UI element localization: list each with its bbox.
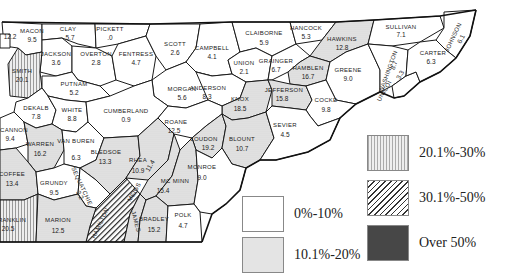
county-name-dekalb: DEKALB xyxy=(23,105,48,111)
county-value-van-buren: 6.3 xyxy=(71,154,80,161)
county-value-blount: 10.7 xyxy=(236,145,249,152)
county-value-morgan: 5.6 xyxy=(177,94,186,101)
county-value-greene: 9.0 xyxy=(343,75,352,82)
county-name-macon: MACON xyxy=(20,28,44,34)
county-name-clay: CLAY xyxy=(60,26,76,32)
county-name-coffee: COFFEE xyxy=(0,171,25,177)
county-name-hamblen: HAMBLEN xyxy=(292,65,323,71)
county-name-union: UNION xyxy=(234,60,255,66)
county-value-fentress: 4.7 xyxy=(131,59,140,66)
county-name-jefferson: JEFFERSON xyxy=(265,87,303,93)
county-name-claiborne: CLAIBORNE xyxy=(245,30,282,36)
county-name-cannon: CANNON xyxy=(0,127,28,133)
county-name-jackson: JACKSON xyxy=(41,51,71,57)
county-name-sullivan: SULLIVAN xyxy=(386,24,417,30)
county-value-pickett: .0 xyxy=(107,34,113,41)
county-name-scott: SCOTT xyxy=(164,41,186,47)
county-value-rhea: 10.9 xyxy=(132,167,145,174)
county-name-cumberland: CUMBERLAND xyxy=(103,108,148,114)
legend-swatch-diagonal xyxy=(367,180,409,216)
county-name-overton: OVERTON xyxy=(80,51,112,57)
county-name-cocke: COCKE xyxy=(315,97,338,103)
legend-label: 30.1%-50% xyxy=(419,190,486,206)
legend-item-10-20: 10.1%-20% xyxy=(242,237,361,273)
county-value-grainger: 6.7 xyxy=(271,66,280,73)
legend-swatch-vertical xyxy=(367,135,409,171)
legend-item-0-10: 0%-10% xyxy=(242,196,343,232)
county-value-hamblen: 16.7 xyxy=(302,73,315,80)
legend-label: Over 50% xyxy=(419,235,476,251)
county-value-bradley: 15.2 xyxy=(148,226,161,233)
legend-label: 10.1%-20% xyxy=(294,247,361,263)
county-value-campbell: 4.1 xyxy=(207,53,216,60)
county-name-greene: GREENE xyxy=(334,67,361,73)
county-jackson xyxy=(40,38,72,76)
county-value-trousdale: 12.2 xyxy=(4,33,17,40)
county-value-coffee: 13.4 xyxy=(6,180,19,187)
county-value-white: 8.8 xyxy=(67,115,76,122)
county-name-marion: MARION xyxy=(45,217,71,223)
county-value-smith: 20.1 xyxy=(16,76,29,83)
legend-item-30-50: 30.1%-50% xyxy=(367,180,486,216)
county-name-loudon: LOUDON xyxy=(190,136,217,142)
county-value-putnam: 5.2 xyxy=(69,89,78,96)
county-value-roane: 12.5 xyxy=(168,127,181,134)
county-name-hawkins: HAWKINS xyxy=(327,36,357,42)
county-name-hancock: HANCOCK xyxy=(290,25,322,31)
county-name-franklin: FRANKLIN xyxy=(0,217,26,223)
county-value-knox: 18.5 xyxy=(234,105,247,112)
county-value-cannon: 9.4 xyxy=(5,135,14,142)
county-value-carter: 6.3 xyxy=(426,58,435,65)
county-value-loudon: 19.2 xyxy=(202,144,215,151)
county-value-claiborne: 5.9 xyxy=(259,39,268,46)
county-name-smith: SMITH xyxy=(12,68,32,74)
county-name-pickett: PICKETT xyxy=(96,26,123,32)
county-value-sullivan: 7.1 xyxy=(396,31,405,38)
county-value-warren: 16.2 xyxy=(34,150,47,157)
legend-item-over-50: Over 50% xyxy=(367,225,476,261)
legend-swatch-dotted xyxy=(242,237,284,273)
county-value-jackson: 3.6 xyxy=(51,59,60,66)
legend-swatch-white xyxy=(242,196,284,232)
county-value-clay: 5.7 xyxy=(65,34,74,41)
county-value-overton: 2.8 xyxy=(91,59,100,66)
county-value-macon: 9.5 xyxy=(27,36,36,43)
county-name-rhea: RHEA xyxy=(129,157,147,163)
county-value-dekalb: 7.8 xyxy=(31,113,40,120)
county-name-carter: CARTER xyxy=(420,50,447,56)
county-value-bledsoe: 13.3 xyxy=(99,158,112,165)
county-value-mcminn: 15.4 xyxy=(157,187,170,194)
county-name-monroe: MONROE xyxy=(188,164,217,170)
county-name-fentress: FENTRESS xyxy=(119,51,153,57)
county-value-scott: 2.6 xyxy=(170,49,179,56)
county-name-blount: BLOUNT xyxy=(229,136,255,142)
county-name-anderson: ANDERSON xyxy=(190,85,226,91)
county-value-union: 2.1 xyxy=(239,68,248,75)
county-name-bradley: BRADLEY xyxy=(139,216,169,222)
county-name-white: WHITE xyxy=(62,107,83,113)
county-value-marion: 12.5 xyxy=(52,227,65,234)
county-value-grundy: 9.5 xyxy=(49,189,58,196)
county-name-warren: WARREN xyxy=(26,141,54,147)
county-value-hawkins: 12.8 xyxy=(336,44,349,51)
county-name-grundy: GRUNDY xyxy=(40,180,68,186)
legend-swatch-dark xyxy=(367,225,409,261)
county-name-mcminn: MC MINN xyxy=(161,178,189,184)
county-name-van-buren: VAN BUREN xyxy=(57,138,94,144)
county-name-grainger: GRAINGER xyxy=(259,58,294,64)
county-name-polk: POLK xyxy=(174,212,191,218)
county-value-jefferson: 15.8 xyxy=(276,95,289,102)
county-value-polk: 4.7 xyxy=(178,222,187,229)
county-value-hancock: 5.3 xyxy=(301,33,310,40)
county-name-putnam: PUTNAM xyxy=(60,81,87,87)
county-value-franklin: 20.5 xyxy=(2,225,15,232)
county-name-campbell: CAMPBELL xyxy=(195,45,230,51)
county-value-sevier: 4.5 xyxy=(280,131,289,138)
legend-label: 0%-10% xyxy=(294,206,343,222)
county-value-cocke: 9.8 xyxy=(321,106,330,113)
county-name-roane: ROANE xyxy=(165,119,188,125)
county-value-monroe: 9.0 xyxy=(197,174,206,181)
county-name-knox: KNOX xyxy=(231,96,249,102)
legend-item-20-30: 20.1%-30% xyxy=(367,135,486,171)
county-name-sevier: SEVIER xyxy=(273,122,297,128)
